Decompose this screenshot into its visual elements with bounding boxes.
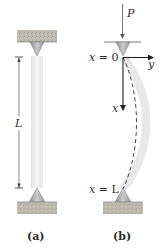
straight-column [31, 56, 43, 188]
bottom-support-block-b [103, 202, 143, 214]
top-position-label: x = 0 [89, 51, 118, 64]
bottom-support-block [17, 202, 57, 214]
dimension-arrow-top [17, 58, 20, 63]
column-buckling-diagram: L (a) P y x x = 0 x = L [0, 0, 167, 252]
dimension-arrow-bottom [17, 184, 20, 189]
load-label: P [126, 7, 135, 20]
caption-b: (b) [113, 230, 131, 243]
y-axis-label: y [147, 58, 155, 71]
bottom-position-label: x = L [89, 183, 119, 196]
top-support-block [17, 30, 57, 42]
bottom-pin-support [29, 188, 45, 202]
top-pin-support [30, 42, 44, 56]
figure-b: P y x x = 0 x = L (b) [89, 4, 155, 243]
caption-a: (a) [27, 230, 45, 243]
x-axis-label: x [112, 102, 119, 115]
bottom-position-eq: = L [95, 183, 119, 196]
top-position-eq: = 0 [95, 51, 118, 64]
length-label: L [14, 117, 22, 130]
figure-a: L (a) [13, 30, 57, 243]
